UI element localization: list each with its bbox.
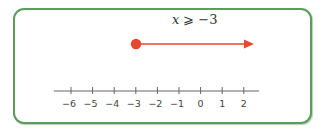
axis-tick-label: −5 (84, 98, 98, 109)
inequality-label: x⩾−3 (172, 12, 218, 27)
number-line-diagram: x⩾−3 −6−5−4−3−2−1012 (0, 0, 333, 137)
axis-labels: −6−5−4−3−2−1012 (62, 98, 247, 109)
axis-tick-label: −2 (148, 98, 162, 109)
arrow-head-icon (244, 40, 254, 49)
axis-tick-label: 1 (219, 98, 225, 109)
axis-tick-label: −3 (127, 98, 141, 109)
axis-tick-label: −4 (105, 98, 119, 109)
axis-tick-label: 0 (198, 98, 204, 109)
closed-dot-icon (131, 39, 141, 49)
axis-tick-label: −1 (170, 98, 184, 109)
axis-tick-label: −6 (62, 98, 76, 109)
axis-tick-label: 2 (241, 98, 247, 109)
